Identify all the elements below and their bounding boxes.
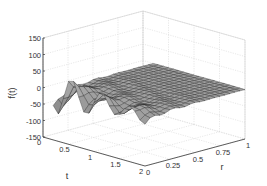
plot-canvas: -150-100-5005010015000.511.5200.250.50.7… [0, 0, 267, 186]
z-tick-label: 100 [28, 51, 41, 60]
r-tick-label: 0.25 [166, 161, 181, 170]
surface-mesh [53, 63, 245, 124]
t-tick-label: 2 [139, 167, 143, 176]
r-tick-label: 1 [246, 141, 250, 150]
t-tick-label: 1.5 [110, 160, 120, 169]
t-axis-label: t [66, 171, 69, 181]
r-axis-label: r [221, 162, 224, 172]
r-tick-label: 0 [146, 168, 150, 177]
z-tick-label: -100 [26, 117, 41, 126]
z-tick-label: 150 [28, 34, 41, 43]
t-tick-label: 0 [37, 138, 41, 147]
t-tick-label: 0.5 [59, 145, 69, 154]
z-tick-label: -50 [30, 100, 41, 109]
r-tick-label: 0.75 [216, 148, 231, 157]
r-tick-label: 0.5 [193, 155, 203, 164]
surface-plot: -150-100-5005010015000.511.5200.250.50.7… [0, 0, 267, 186]
z-tick-label: 0 [37, 84, 41, 93]
z-axis-label: f(t) [7, 88, 17, 99]
t-tick-label: 1 [88, 153, 92, 162]
z-tick-label: 50 [33, 67, 41, 76]
